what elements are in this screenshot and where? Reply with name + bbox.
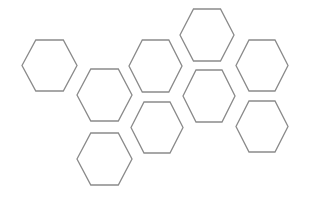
hex-7-shape [236,101,288,152]
hex-9-shape [77,133,132,185]
hex-8-shape [131,102,183,153]
hexagon-diagram [0,0,309,198]
hex-5-shape [236,40,288,91]
hex-3-shape [129,40,182,92]
hex-2-shape [77,69,132,121]
hex-4-shape [180,9,234,61]
hexagon-group [22,9,288,185]
hex-1-shape [22,40,77,91]
hex-6-shape [183,70,235,122]
